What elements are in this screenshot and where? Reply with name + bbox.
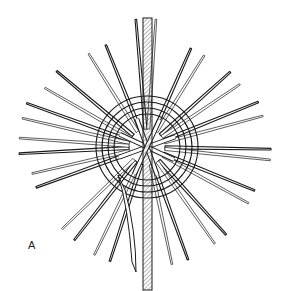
basket-weave-illustration	[0, 0, 292, 291]
figure-label: A	[28, 239, 35, 251]
spoke	[153, 48, 192, 131]
spoke	[155, 55, 205, 133]
central-stake	[143, 18, 152, 290]
